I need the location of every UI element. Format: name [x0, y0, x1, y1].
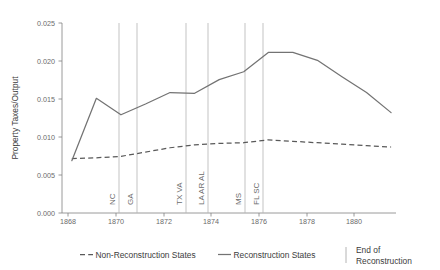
- state-label-nc: NC: [108, 193, 117, 205]
- y-tick-label-5: 0.025: [37, 19, 55, 28]
- legend-label-end-of-reconstruction-line2[interactable]: Reconstruction: [356, 256, 412, 266]
- legend-label-end-of-reconstruction-line1[interactable]: End of: [356, 245, 381, 255]
- legend-label-non-reconstruction[interactable]: Non-Reconstruction States: [96, 250, 196, 260]
- x-tick-label-1868: 1868: [60, 217, 76, 226]
- y-tick-label-0: 0.000: [37, 209, 55, 218]
- x-tick-label-1870: 1870: [108, 217, 124, 226]
- state-label-ms: MS: [234, 193, 243, 205]
- legend-label-reconstruction[interactable]: Reconstruction States: [234, 250, 316, 260]
- x-tick-label-1872: 1872: [156, 217, 172, 226]
- y-tick-label-4: 0.020: [37, 57, 55, 66]
- chart-background: [0, 0, 440, 270]
- x-tick-label-1878: 1878: [299, 217, 315, 226]
- property-taxes-chart: 0.000 0.005 0.010 0.015 0.020 0.025 Prop…: [0, 0, 440, 270]
- x-tick-label-1880: 1880: [346, 217, 362, 226]
- state-label-tx-va: TX VA: [175, 182, 184, 205]
- state-label-fl-sc: FL SC: [252, 182, 261, 205]
- y-tick-label-2: 0.010: [37, 133, 55, 142]
- state-label-la-ar-al: LA AR AL: [197, 171, 206, 205]
- x-tick-label-1876: 1876: [251, 217, 267, 226]
- x-tick-label-1874: 1874: [203, 217, 219, 226]
- y-tick-label-3: 0.015: [37, 95, 55, 104]
- state-label-ga: GA: [126, 193, 135, 205]
- y-axis-title: Property Taxes/Output: [10, 76, 20, 160]
- y-tick-label-1: 0.005: [37, 171, 55, 180]
